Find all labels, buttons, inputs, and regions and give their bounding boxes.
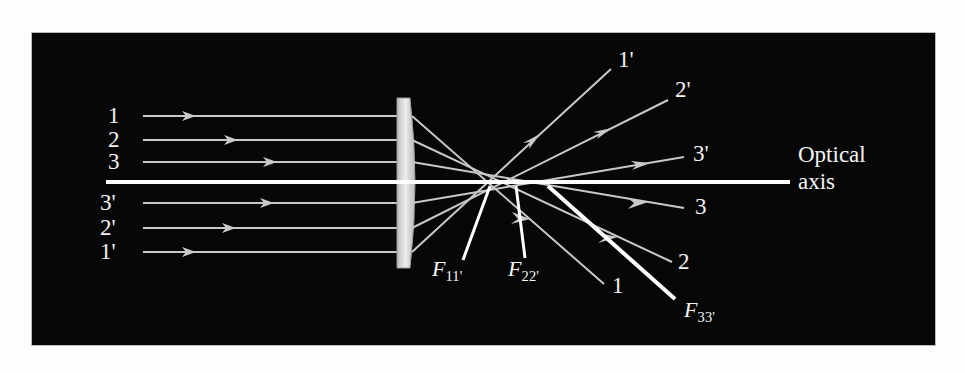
optical-axis-label: Optical axis: [798, 141, 866, 195]
focal-f11-symbol: F: [432, 256, 445, 281]
outgoing-ray-label-2: 2: [678, 250, 690, 273]
focal-point-label-f33: F33': [684, 299, 715, 324]
incoming-ray-1: [143, 111, 399, 121]
incoming-ray-label-2-prime: 2': [100, 216, 116, 239]
refracted-rays-group: [412, 69, 684, 284]
incoming-ray-2-prime: [143, 223, 399, 233]
focal-f22-symbol: F: [508, 256, 521, 281]
incoming-ray-3: [143, 157, 399, 167]
focal-f33-subscript: 33': [697, 309, 715, 325]
optical-axis-label-line2: axis: [798, 168, 866, 195]
outgoing-ray-label-1: 1: [612, 274, 624, 297]
focal-f22-subscript: 22': [521, 268, 539, 284]
leader-line-f11: [463, 186, 490, 260]
refracted-ray-3: [412, 162, 684, 209]
focal-point-label-f11: F11': [432, 258, 463, 283]
focal-f11-subscript: 11': [445, 268, 462, 284]
focal-f33-symbol: F: [684, 297, 697, 322]
incoming-ray-label-3: 3: [108, 150, 120, 173]
incoming-ray-1-prime: [143, 247, 399, 257]
outgoing-ray-label-2-prime: 2': [675, 78, 691, 101]
refracted-ray-2-prime: [412, 100, 668, 228]
incoming-ray-label-3-prime: 3': [100, 191, 116, 214]
optical-axis-label-line1: Optical: [798, 141, 866, 168]
incoming-ray-2: [143, 135, 399, 145]
outgoing-ray-label-3-prime: 3': [693, 142, 709, 165]
outgoing-ray-label-1-prime: 1': [618, 48, 634, 71]
incoming-ray-3-prime: [143, 198, 399, 208]
incoming-ray-label-1: 1: [108, 104, 120, 127]
refracted-ray-1-prime: [412, 69, 611, 252]
incoming-ray-label-1-prime: 1': [100, 240, 116, 263]
figure-root: 1 2 3 3' 2' 1' 1' 2' 3' 3 2 1 F11' F22' …: [0, 0, 965, 373]
focal-point-label-f22: F22': [508, 258, 539, 283]
outgoing-ray-label-3: 3: [695, 195, 707, 218]
incoming-ray-label-2: 2: [108, 128, 120, 151]
